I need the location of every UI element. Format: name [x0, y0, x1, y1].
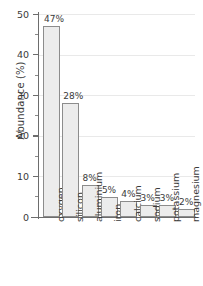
bar-value-oxygen: 47%	[44, 15, 64, 24]
bar-chart: Abundance (%) 50 40 30 20 10 0 47%oxygen…	[0, 0, 203, 286]
bar-value-silicon: 28%	[63, 92, 83, 101]
bar-value-iron: 5%	[102, 186, 116, 195]
bars-layer: 47%oxygen28%silicon8%aluminium5%iron4%ca…	[0, 0, 203, 286]
x-tick-label-magnesium: magnesium	[191, 166, 201, 222]
